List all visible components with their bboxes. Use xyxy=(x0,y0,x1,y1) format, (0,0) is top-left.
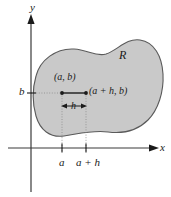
point-label-a-b: (a, b) xyxy=(54,72,76,82)
x-tick-label-a: a xyxy=(59,157,65,168)
point-label-a-plus-h-b: (a + h, b) xyxy=(89,86,127,96)
y-tick-label-b: b xyxy=(19,86,25,97)
region-label-r: R xyxy=(119,49,126,61)
increment-label-h: h xyxy=(71,101,76,111)
y-axis-label: y xyxy=(30,2,35,13)
y-axis-arrowhead xyxy=(27,14,34,24)
x-tick-label-a-plus-h: a + h xyxy=(76,157,100,168)
math-figure-region-r: y x R b (a, b) (a + h, b) h a a + h xyxy=(0,0,171,197)
x-axis-arrowhead xyxy=(149,144,159,151)
point-a-plus-h-b-dot xyxy=(84,91,88,95)
point-a-b-dot xyxy=(60,91,64,95)
x-axis-label: x xyxy=(160,142,165,153)
